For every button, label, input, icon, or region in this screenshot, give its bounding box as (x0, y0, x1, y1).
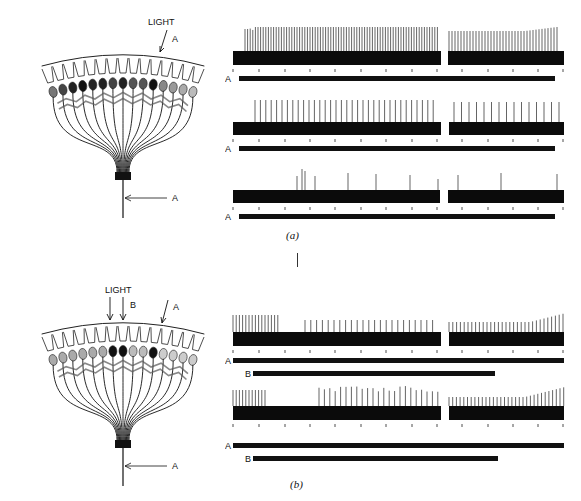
trace-row-b1: AB (225, 314, 564, 379)
trace-row-b2: AB (225, 386, 564, 464)
receptor-cell (158, 80, 168, 92)
stimulus-label-b: B (130, 300, 136, 310)
receptor-cell (88, 347, 97, 359)
stimulus-bar-label: B (245, 454, 251, 464)
stimulus-bar-label: B (245, 369, 251, 379)
ommatidia-diagram-a: ALIGHTA (0, 0, 230, 250)
stimulus-bar-label: A (225, 212, 231, 222)
stimulus-bar (233, 443, 564, 448)
cornea-arc (42, 55, 205, 66)
stimulus-label-a: A (172, 34, 178, 44)
receptor-cell (129, 346, 137, 357)
divider-mark (297, 253, 298, 267)
receptor-cell (129, 78, 137, 89)
stimulus-label-a: A (173, 302, 179, 312)
receptor-cell (68, 349, 78, 361)
receptor-cell (48, 354, 59, 367)
trace-baseline (449, 332, 564, 346)
receptor-cell (168, 349, 178, 361)
receptor-cell (109, 346, 117, 357)
receptor-cell (149, 79, 158, 91)
stimulus-bar (253, 371, 495, 376)
cornea-arc (42, 323, 205, 334)
trace-baseline (233, 122, 441, 135)
panel-b-diagram: ALIGHTBA (0, 250, 230, 501)
nerve-bundle (115, 172, 131, 180)
receptor-cell (78, 80, 88, 92)
receptor-cell (68, 81, 78, 93)
stimulus-bar-label: A (225, 356, 231, 366)
trace-baseline (233, 332, 441, 346)
trace-baseline (233, 406, 441, 420)
receptor-cell (48, 86, 59, 99)
trace-baseline (449, 406, 564, 420)
stimulus-bar (253, 456, 498, 461)
receptor-cell (109, 78, 117, 89)
trace-row-a2: A (225, 100, 564, 154)
panel-a-diagram: ALIGHTA (0, 0, 230, 250)
light-label: LIGHT (105, 285, 132, 295)
receptor-cell (178, 83, 188, 95)
panel-a-traces: AAA (225, 0, 581, 250)
ommatidia-diagram-b: ALIGHTBA (0, 250, 230, 501)
receptor-cell (119, 78, 127, 89)
receptor-cell (149, 347, 158, 359)
receptor-cell (98, 346, 107, 358)
stimulus-bar (239, 146, 555, 151)
receptor-cell (58, 83, 68, 95)
receptor-cell (139, 346, 148, 358)
trace-baseline (448, 190, 564, 203)
stimulus-bar-label: A (225, 74, 231, 84)
stimulus-bar-label: A (225, 441, 231, 451)
spike-traces-a: AAA (225, 0, 581, 250)
receptor-cell (178, 351, 188, 363)
receptor-cell (78, 348, 88, 360)
spike-traces-b: ABAB (225, 300, 581, 500)
receptor-cell (188, 86, 199, 99)
panel-b-traces: ABAB (225, 300, 581, 500)
stimulus-bar (239, 214, 555, 219)
receptor-cell (98, 78, 107, 90)
stimulus-bar (233, 358, 564, 363)
trace-row-a3: A (225, 169, 564, 222)
receptor-cell (119, 346, 127, 357)
caption-panel-b: (b) (290, 478, 303, 490)
light-label: LIGHT (148, 17, 175, 27)
trace-baseline (233, 51, 441, 65)
receptor-cell (139, 78, 148, 90)
receptor-cell (188, 354, 199, 367)
nerve-bundle (115, 440, 131, 448)
trace-row-a1: A (225, 27, 564, 84)
receptor-cell (88, 79, 97, 91)
receptor-cell (58, 351, 68, 363)
recording-label: A (172, 461, 178, 471)
receptor-cell (158, 348, 168, 360)
trace-baseline (448, 51, 564, 65)
recording-label: A (172, 193, 178, 203)
stimulus-bar (239, 76, 555, 81)
trace-baseline (233, 190, 440, 203)
trace-baseline (449, 122, 564, 135)
stimulus-bar-label: A (225, 144, 231, 154)
receptor-cell (168, 81, 178, 93)
caption-panel-a: (a) (286, 229, 299, 241)
